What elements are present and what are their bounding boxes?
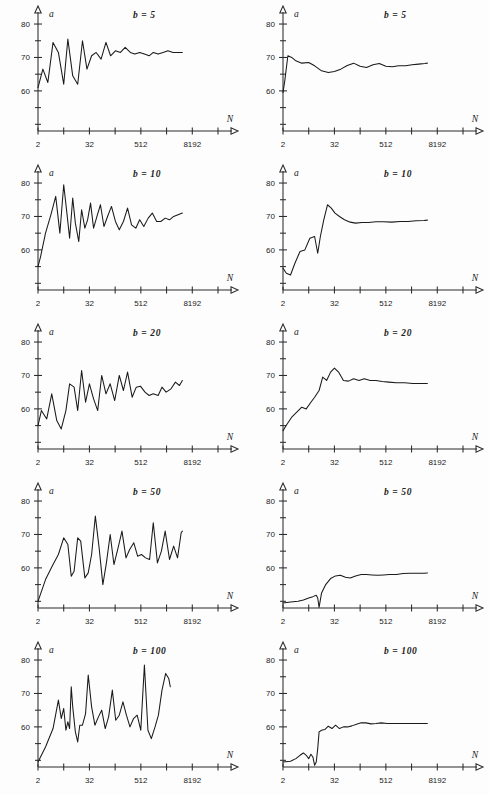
x-tick-label: 512 [379, 458, 393, 467]
y-tick-label: 80 [266, 338, 275, 347]
y-tick-label: 60 [21, 87, 30, 96]
y-tick-label: 60 [21, 405, 30, 414]
x-tick-label: 2 [281, 776, 286, 785]
y-tick-label: 70 [266, 530, 275, 539]
y-axis-name: a [294, 327, 299, 337]
x-tick-label: 8192 [428, 140, 446, 149]
x-tick-label: 8192 [183, 458, 201, 467]
x-axis-name: N [471, 750, 479, 760]
x-tick-label: 512 [134, 776, 148, 785]
axes: 8070602325128192aN [21, 324, 238, 467]
chart-panel-b5-left: 8070602325128192aNb = 5 [0, 0, 244, 159]
y-tick-label: 80 [266, 497, 275, 506]
y-tick-label: 70 [266, 371, 275, 380]
x-tick-label: 2 [281, 458, 286, 467]
data-curve [283, 573, 427, 607]
x-tick-label: 512 [379, 299, 393, 308]
x-axis-name: N [226, 591, 234, 601]
x-tick-label: 512 [134, 140, 148, 149]
x-tick-label: 512 [134, 458, 148, 467]
data-curve [283, 723, 427, 765]
chart-panel-b50-left: 8070602325128192aNb = 50 [0, 477, 244, 636]
x-tick-label: 512 [379, 140, 393, 149]
y-tick-label: 80 [21, 338, 30, 347]
x-tick-label: 2 [281, 140, 286, 149]
chart-panel-b5-right: 8070602325128192aNb = 5 [245, 0, 489, 159]
x-axis-name: N [471, 432, 479, 442]
panel-parameter-label: b = 5 [384, 10, 407, 20]
axes: 8070602325128192aN [21, 483, 238, 626]
y-tick-label: 60 [21, 723, 30, 732]
x-tick-label: 8192 [183, 299, 201, 308]
axes: 8070602325128192aN [266, 6, 483, 149]
y-tick-label: 70 [21, 212, 30, 221]
x-tick-label: 32 [85, 458, 94, 467]
y-tick-label: 60 [266, 87, 275, 96]
axes: 8070602325128192aN [21, 6, 238, 149]
panel-parameter-label: b = 20 [384, 328, 412, 338]
x-tick-label: 2 [36, 776, 41, 785]
y-tick-label: 70 [266, 689, 275, 698]
x-tick-label: 512 [379, 776, 393, 785]
y-tick-label: 60 [266, 246, 275, 255]
x-axis-name: N [226, 432, 234, 442]
x-tick-label: 2 [281, 617, 286, 626]
panel-parameter-label: b = 100 [384, 646, 417, 656]
x-axis-name: N [226, 114, 234, 124]
y-axis-name: a [294, 645, 299, 655]
axes: 8070602325128192aN [266, 483, 483, 626]
data-curve [283, 56, 427, 93]
y-tick-label: 80 [266, 20, 275, 29]
figure-panel-grid: 8070602325128192aNb = 58070602325128192a… [0, 0, 489, 795]
y-axis-name: a [294, 168, 299, 178]
chart-panel-b20-right: 8070602325128192aNb = 20 [245, 318, 489, 477]
x-tick-label: 8192 [428, 299, 446, 308]
y-tick-label: 80 [21, 656, 30, 665]
y-axis-name: a [49, 327, 54, 337]
panel-parameter-label: b = 10 [384, 169, 412, 179]
x-tick-label: 32 [85, 776, 94, 785]
axes: 8070602325128192aN [21, 642, 238, 785]
y-tick-label: 80 [266, 179, 275, 188]
x-axis-name: N [226, 750, 234, 760]
axes: 8070602325128192aN [266, 324, 483, 467]
y-axis-name: a [49, 645, 54, 655]
panel-parameter-label: b = 50 [384, 487, 412, 497]
x-tick-label: 32 [85, 617, 94, 626]
y-axis-name: a [49, 9, 54, 19]
y-tick-label: 60 [266, 723, 275, 732]
panel-parameter-label: b = 5 [133, 10, 156, 20]
y-axis-name: a [294, 9, 299, 19]
axes: 8070602325128192aN [266, 642, 483, 785]
x-tick-label: 2 [281, 299, 286, 308]
x-tick-label: 32 [330, 299, 339, 308]
y-axis-name: a [49, 486, 54, 496]
x-axis-name: N [226, 273, 234, 283]
panel-parameter-label: b = 100 [133, 646, 166, 656]
y-tick-label: 80 [21, 179, 30, 188]
chart-panel-b50-right: 8070602325128192aNb = 50 [245, 477, 489, 636]
x-tick-label: 2 [36, 140, 41, 149]
y-tick-label: 70 [266, 212, 275, 221]
x-tick-label: 8192 [428, 617, 446, 626]
chart-panel-b100-right: 8070602325128192aNb = 100 [245, 636, 489, 795]
y-axis-name: a [49, 168, 54, 178]
x-axis-name: N [471, 114, 479, 124]
data-curve [283, 205, 427, 275]
y-tick-label: 70 [266, 53, 275, 62]
data-curve [38, 665, 170, 762]
chart-panel-b100-left: 8070602325128192aNb = 100 [0, 636, 244, 795]
x-axis-name: N [471, 273, 479, 283]
x-tick-label: 512 [379, 617, 393, 626]
panel-parameter-label: b = 20 [133, 328, 161, 338]
data-curve [38, 370, 182, 429]
x-axis-name: N [471, 591, 479, 601]
y-tick-label: 70 [21, 530, 30, 539]
y-tick-label: 60 [266, 405, 275, 414]
data-curve [38, 39, 182, 87]
chart-panel-b20-left: 8070602325128192aNb = 20 [0, 318, 244, 477]
y-tick-label: 80 [21, 497, 30, 506]
x-tick-label: 8192 [183, 776, 201, 785]
x-tick-label: 32 [330, 458, 339, 467]
chart-panel-b10-left: 8070602325128192aNb = 10 [0, 159, 244, 318]
